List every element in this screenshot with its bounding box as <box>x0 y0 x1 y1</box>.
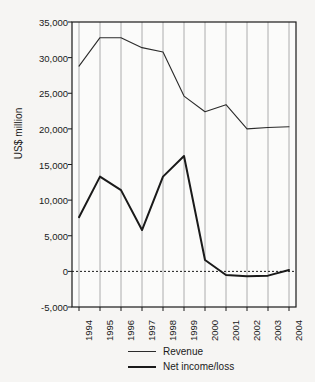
x-axis-tick-label: 1997 <box>146 320 157 341</box>
x-axis-tick-label: 1994 <box>83 320 94 341</box>
x-axis-tick-label: 2001 <box>230 320 241 341</box>
x-axis-tick-label: 1999 <box>188 320 199 341</box>
plot-area <box>0 0 315 382</box>
legend-line-swatch <box>128 366 156 368</box>
x-axis-tick-label: 2000 <box>209 320 220 341</box>
x-axis-tick-label: 2003 <box>272 320 283 341</box>
x-axis-tick-label: 1996 <box>125 320 136 341</box>
x-axis-tick-label: 2002 <box>251 320 262 341</box>
x-axis-tick-label: 2004 <box>293 320 304 341</box>
legend-item: Net income/loss <box>128 359 234 374</box>
x-axis-tick-label: 1995 <box>104 320 115 341</box>
legend-item-label: Net income/loss <box>163 362 234 372</box>
chart-container: US$ million 35,00030,00025,00020,00015,0… <box>0 0 315 382</box>
chart-legend: RevenueNet income/loss <box>128 344 234 374</box>
legend-item: Revenue <box>128 344 234 359</box>
legend-item-label: Revenue <box>163 347 203 357</box>
x-axis-tick-label: 1998 <box>167 320 178 341</box>
legend-line-swatch <box>128 351 156 352</box>
